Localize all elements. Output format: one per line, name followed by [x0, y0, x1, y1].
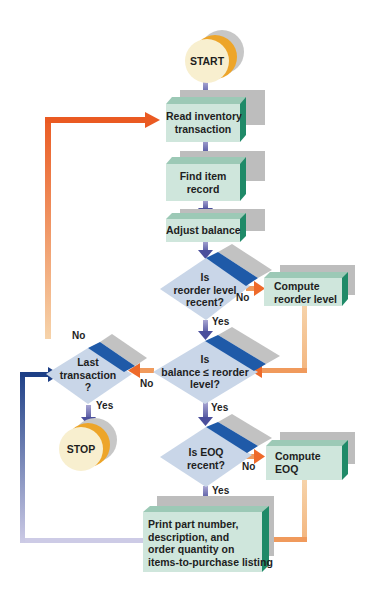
find-item-label-line-1: Find item: [166, 170, 240, 183]
balance-check-label-line-1: Is: [155, 353, 255, 366]
eoq-no-label: No: [242, 461, 255, 472]
read-inventory-label-line-2: transaction: [166, 123, 240, 136]
balance-check-label: Is balance ≤ reorder level?: [155, 353, 255, 391]
reorder-recent-label-line-1: Is: [160, 271, 250, 284]
balance-no-label: No: [140, 378, 153, 389]
last-transaction-label-line-2: transaction: [48, 369, 128, 382]
print-listing-label-line-2: description, and: [148, 531, 273, 544]
read-inventory-label-line-1: Read inventory: [166, 110, 240, 123]
stop-label: STOP: [59, 443, 103, 456]
balance-check-label-line-3: level?: [155, 378, 255, 391]
adjust-balance-label: Adjust balance: [166, 224, 240, 237]
print-listing-label: Print part number, description, and orde…: [148, 518, 273, 568]
reorder-no-label: No: [236, 292, 249, 303]
last-transaction-label-line-3: ?: [48, 381, 128, 394]
print-listing-label-line-1: Print part number,: [148, 518, 273, 531]
last-transaction-label-line-1: Last: [48, 356, 128, 369]
read-inventory-label: Read inventory transaction: [166, 110, 240, 135]
balance-check-label-line-2: balance ≤ reorder: [155, 366, 255, 379]
find-item-label: Find item record: [166, 170, 240, 195]
last-no-label: No: [72, 330, 85, 341]
compute-reorder-label: Compute reorder level: [274, 280, 337, 305]
print-listing-label-line-4: items-to-purchase listing: [148, 556, 273, 569]
compute-eoq-label-line-1: Compute: [275, 450, 321, 463]
reorder-yes-label: Yes: [212, 316, 229, 327]
compute-reorder-label-line-1: Compute: [274, 280, 337, 293]
compute-eoq-label: Compute EOQ: [275, 450, 321, 475]
eoq-yes-label: Yes: [212, 485, 229, 496]
eoq-recent-label: Is EOQ recent?: [160, 446, 252, 471]
balance-yes-label: Yes: [211, 402, 228, 413]
find-item-label-line-2: record: [166, 183, 240, 196]
loop-arrow-last-to-read: [45, 112, 160, 339]
eoq-recent-label-line-1: Is EOQ: [160, 446, 252, 459]
print-listing-label-line-3: order quantity on: [148, 543, 273, 556]
eoq-recent-label-line-2: recent?: [160, 459, 252, 472]
last-transaction-label: Last transaction ?: [48, 356, 128, 394]
last-yes-label: Yes: [96, 400, 113, 411]
start-label: START: [185, 55, 229, 68]
compute-eoq-label-line-2: EOQ: [275, 463, 321, 476]
compute-reorder-label-line-2: reorder level: [274, 293, 337, 306]
